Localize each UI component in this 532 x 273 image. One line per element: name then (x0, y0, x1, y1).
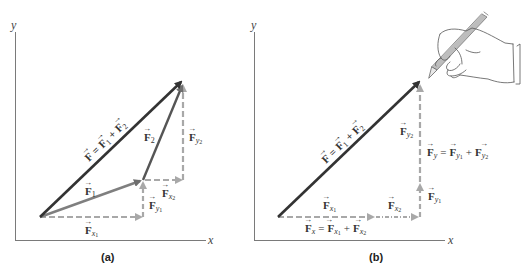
panel-b: y x F=F1+F2 → → → → Fy2 → → → Fy=Fy1+Fy2 (250, 12, 520, 263)
fx1-label: → Fx1 (322, 192, 336, 213)
resultant-vector-arrow (40, 82, 181, 217)
fy-sum-equation: → → → Fy=Fy1+Fy2 (426, 139, 488, 160)
y-axis-label: y (10, 18, 17, 32)
svg-text:Fy2: Fy2 (189, 131, 202, 145)
svg-text:F=F1+F2: F=F1+F2 (319, 120, 367, 167)
svg-text:Fx1: Fx1 (323, 199, 336, 213)
fx2-label: → Fx2 (161, 180, 175, 201)
svg-text:F1: F1 (85, 185, 96, 199)
svg-text:F2: F2 (144, 131, 155, 145)
svg-text:Fy1: Fy1 (428, 190, 441, 204)
vector-addition-diagram: y x F=F1+F2 → → → → F1 → F2 → (0, 0, 532, 273)
svg-text:Fx2: Fx2 (162, 187, 175, 201)
fy2-label: → Fy2 (188, 124, 202, 145)
svg-text:Fx2: Fx2 (388, 199, 401, 213)
hand-pencil-icon (429, 12, 520, 84)
svg-text:F=F1+F2: F=F1+F2 (82, 118, 130, 165)
svg-text:Fy1: Fy1 (149, 199, 162, 213)
resultant-vector-arrow (278, 82, 419, 217)
f1-label: → F1 (84, 178, 96, 199)
panel-a-label: (a) (101, 251, 115, 263)
panel-a: y x F=F1+F2 → → → → F1 → F2 → (10, 18, 214, 263)
panel-b-label: (b) (369, 251, 383, 263)
fx-sum-equation: → → → Fx=Fx1+Fx2 (304, 215, 366, 236)
x-axis-label: x (447, 233, 454, 247)
fy2-label: → Fy2 (399, 118, 413, 139)
fy1-label: → Fy1 (148, 192, 162, 213)
fx2-label: → Fx2 (387, 192, 401, 213)
svg-text:Fx=Fx1+Fx2: Fx=Fx1+Fx2 (305, 222, 366, 236)
fy1-label: → Fy1 (427, 183, 441, 204)
resultant-label: F=F1+F2 → → → (314, 114, 368, 166)
svg-text:Fx1: Fx1 (85, 224, 98, 238)
y-axis-label: y (250, 18, 257, 32)
f2-label: → F2 (143, 124, 155, 145)
x-axis-label: x (207, 233, 214, 247)
fx1-label: → Fx1 (84, 217, 98, 238)
svg-text:Fy=Fy1+Fy2: Fy=Fy1+Fy2 (427, 146, 488, 160)
svg-text:Fy2: Fy2 (400, 125, 413, 139)
